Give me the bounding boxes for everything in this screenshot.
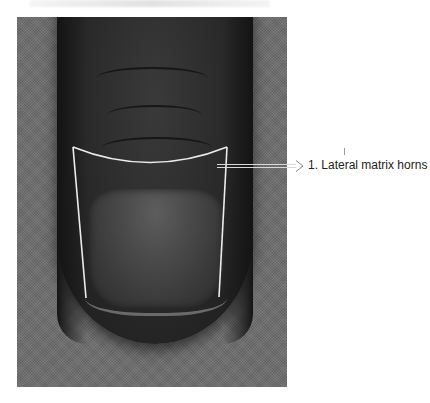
annotation-overlay: [0, 0, 430, 403]
pointer-arrow: [217, 161, 303, 172]
annotation-label: 1. Lateral matrix horns: [308, 158, 427, 172]
matrix-outline: [73, 147, 227, 298]
proximal-matrix-curve: [73, 147, 227, 163]
tick-mark: [344, 148, 345, 155]
right-lateral-horn-line: [219, 147, 227, 297]
left-lateral-horn-line: [73, 147, 86, 298]
arrowhead-icon: [296, 161, 303, 172]
